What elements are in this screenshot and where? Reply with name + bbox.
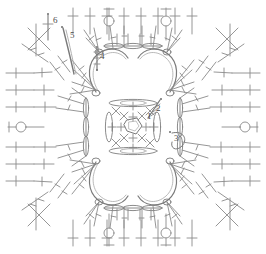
- round3-petals: [89, 49, 176, 205]
- round-label-3: 3: [174, 134, 179, 143]
- corner-crossed-stitches-bottom-left: [22, 192, 50, 230]
- round6-right-stitches: [210, 68, 260, 186]
- round-label-5: 5: [70, 31, 75, 40]
- round2-inner-crosses: [108, 102, 158, 152]
- round6-marker-stitch: [43, 13, 53, 40]
- corner-crossed-stitches-top-left: [22, 24, 50, 62]
- round6-left-stitches: [6, 68, 56, 186]
- round4-chain-bars: [83, 43, 182, 210]
- corner-crossed-stitches-bottom-right: [216, 192, 244, 230]
- corner-diagonal-stitches: [50, 56, 216, 198]
- picot-ring-left: [8, 122, 44, 132]
- crochet-stitch-diagram: [0, 0, 266, 254]
- round-label-2: 2: [156, 104, 161, 113]
- crochet-chart-page: 1 2 3 4 5 6: [0, 0, 266, 254]
- corner-crossed-stitches-top-right: [216, 24, 244, 62]
- round-label-4: 4: [100, 52, 105, 61]
- round5-radiating-spokes: [56, 26, 210, 228]
- round-label-6: 6: [53, 16, 58, 25]
- petal-join-knots: [92, 49, 174, 205]
- round-label-1: 1: [147, 112, 152, 121]
- picot-ring-top-right: [161, 8, 171, 40]
- picot-ring-top-left: [104, 8, 114, 40]
